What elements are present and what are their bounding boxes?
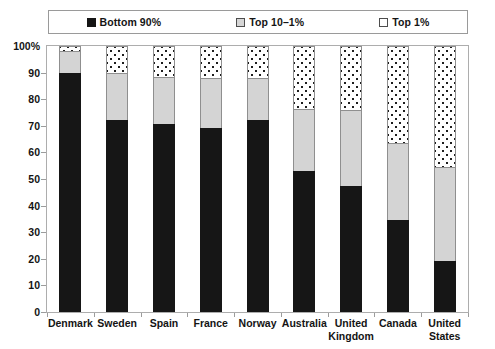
y-tick-label: 10 bbox=[28, 279, 40, 291]
legend-item-top-1: Top 1% bbox=[379, 16, 429, 28]
chart-legend: Bottom 90% Top 10–1% Top 1% bbox=[48, 10, 468, 34]
x-tick-mark bbox=[47, 313, 48, 317]
y-tick-label: 80 bbox=[28, 93, 40, 105]
legend-label-top-10-1: Top 10–1% bbox=[249, 16, 304, 28]
bar-stack bbox=[434, 46, 456, 312]
x-tick-label-united-kingdom: United Kingdom bbox=[328, 316, 375, 349]
bar-segment-top-10-1[interactable] bbox=[293, 109, 315, 172]
bar-group-canada[interactable] bbox=[374, 46, 421, 312]
bar-segment-top-10-1[interactable] bbox=[200, 78, 222, 129]
bar-segment-top-1[interactable] bbox=[340, 46, 362, 110]
x-tick-mark bbox=[94, 313, 95, 317]
x-tick-mark bbox=[374, 313, 375, 317]
y-tick-label: 20 bbox=[28, 253, 40, 265]
y-tick-label: 90 bbox=[28, 67, 40, 79]
bar-group-australia[interactable] bbox=[281, 46, 328, 312]
bar-segment-bottom-90[interactable] bbox=[340, 186, 362, 312]
bar-segment-bottom-90[interactable] bbox=[434, 261, 456, 312]
y-tick-label: 50 bbox=[28, 173, 40, 185]
bars-layer bbox=[47, 46, 468, 312]
x-tick-label-norway: Norway bbox=[234, 316, 281, 349]
bar-segment-bottom-90[interactable] bbox=[247, 120, 269, 312]
x-tick-mark bbox=[281, 313, 282, 317]
x-tick-label-denmark: Denmark bbox=[47, 316, 94, 349]
bar-stack bbox=[340, 46, 362, 312]
bar-stack bbox=[59, 46, 81, 312]
x-tick-label-france: France bbox=[187, 316, 234, 349]
bar-segment-top-1[interactable] bbox=[153, 46, 175, 77]
legend-label-bottom-90: Bottom 90% bbox=[100, 16, 162, 28]
bar-group-spain[interactable] bbox=[141, 46, 188, 312]
bar-group-france[interactable] bbox=[187, 46, 234, 312]
bar-segment-bottom-90[interactable] bbox=[293, 171, 315, 312]
dotted-white-square-icon bbox=[379, 18, 388, 27]
y-tick-label: 0 bbox=[34, 306, 40, 318]
y-tick-label: 40 bbox=[28, 200, 40, 212]
bar-stack bbox=[153, 46, 175, 312]
bar-group-denmark[interactable] bbox=[47, 46, 94, 312]
bar-segment-top-1[interactable] bbox=[106, 46, 128, 73]
bar-segment-bottom-90[interactable] bbox=[153, 124, 175, 312]
legend-item-bottom-90: Bottom 90% bbox=[87, 16, 162, 28]
bar-segment-top-10-1[interactable] bbox=[340, 110, 362, 186]
bar-stack bbox=[387, 46, 409, 312]
bar-stack bbox=[106, 46, 128, 312]
bar-segment-top-10-1[interactable] bbox=[59, 51, 81, 72]
bar-group-sweden[interactable] bbox=[94, 46, 141, 312]
bar-group-united-states[interactable] bbox=[421, 46, 468, 312]
bar-stack bbox=[247, 46, 269, 312]
x-tick-mark bbox=[328, 313, 329, 317]
x-axis: DenmarkSwedenSpainFranceNorwayAustraliaU… bbox=[47, 316, 468, 349]
bar-segment-top-10-1[interactable] bbox=[247, 78, 269, 121]
y-tick-label: 30 bbox=[28, 226, 40, 238]
x-tick-mark bbox=[141, 313, 142, 317]
light-gray-square-icon bbox=[236, 18, 245, 27]
bar-segment-bottom-90[interactable] bbox=[387, 220, 409, 312]
x-tick-mark bbox=[234, 313, 235, 317]
y-axis: 100%9080706050403020100 bbox=[0, 45, 40, 313]
y-tick-label: 100% bbox=[13, 40, 40, 52]
bar-segment-top-10-1[interactable] bbox=[106, 73, 128, 121]
bar-segment-top-1[interactable] bbox=[434, 46, 456, 167]
bar-segment-bottom-90[interactable] bbox=[106, 120, 128, 312]
bar-segment-top-10-1[interactable] bbox=[434, 167, 456, 261]
bar-segment-top-10-1[interactable] bbox=[387, 143, 409, 220]
bar-stack bbox=[293, 46, 315, 312]
bar-segment-bottom-90[interactable] bbox=[59, 73, 81, 312]
x-tick-mark bbox=[468, 313, 469, 317]
bar-segment-top-1[interactable] bbox=[387, 46, 409, 143]
filled-black-square-icon bbox=[87, 18, 96, 27]
bar-segment-bottom-90[interactable] bbox=[200, 128, 222, 312]
x-tick-label-spain: Spain bbox=[141, 316, 188, 349]
x-tick-mark bbox=[187, 313, 188, 317]
stacked-bar-chart: Bottom 90% Top 10–1% Top 1% 100%90807060… bbox=[0, 0, 495, 349]
bar-group-united-kingdom[interactable] bbox=[328, 46, 375, 312]
x-tick-label-united-states: United States bbox=[421, 316, 468, 349]
y-tick-label: 70 bbox=[28, 120, 40, 132]
bar-segment-top-1[interactable] bbox=[200, 46, 222, 78]
legend-label-top-1: Top 1% bbox=[392, 16, 429, 28]
bar-stack bbox=[200, 46, 222, 312]
y-tick-label: 60 bbox=[28, 146, 40, 158]
x-tick-label-australia: Australia bbox=[281, 316, 328, 349]
x-tick-mark bbox=[421, 313, 422, 317]
x-tick-label-sweden: Sweden bbox=[94, 316, 141, 349]
bar-segment-top-10-1[interactable] bbox=[153, 77, 175, 125]
legend-item-top-10-1: Top 10–1% bbox=[236, 16, 304, 28]
bar-segment-top-1[interactable] bbox=[293, 46, 315, 109]
x-tick-label-canada: Canada bbox=[374, 316, 421, 349]
bar-group-norway[interactable] bbox=[234, 46, 281, 312]
bar-segment-top-1[interactable] bbox=[247, 46, 269, 78]
